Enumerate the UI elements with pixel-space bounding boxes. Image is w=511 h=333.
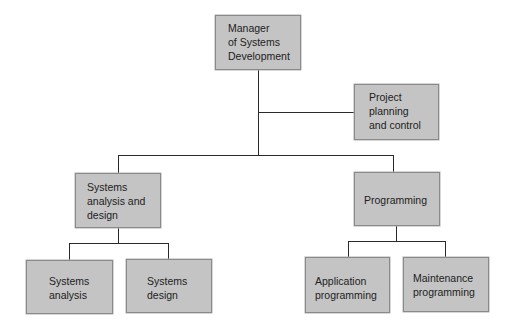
connector-programming-children-bar bbox=[348, 241, 446, 242]
connector-programming-down bbox=[396, 225, 397, 241]
node-systems-analysis: Systems analysis bbox=[26, 260, 113, 314]
node-systems-analysis-design: Systems analysis and design bbox=[75, 173, 161, 228]
node-application-programming: Application programming bbox=[305, 257, 390, 313]
node-label: Systems design bbox=[147, 274, 187, 302]
connector-to-systems-design bbox=[168, 243, 169, 259]
connector-to-programming bbox=[393, 155, 394, 172]
node-maintenance-programming: Maintenance programming bbox=[403, 257, 489, 312]
connector-staff-project-planning bbox=[258, 112, 354, 113]
node-programming: Programming bbox=[354, 172, 440, 226]
connector-level2-bar bbox=[118, 155, 394, 156]
node-label: Maintenance programming bbox=[413, 271, 475, 299]
connector-to-maintenance-programming bbox=[445, 241, 446, 257]
connector-to-sad bbox=[118, 155, 119, 173]
connector-to-application-programming bbox=[348, 241, 349, 257]
node-manager-systems-development: Manager of Systems Development bbox=[215, 15, 301, 70]
node-systems-design: Systems design bbox=[126, 259, 212, 313]
connector-sad-down bbox=[118, 227, 119, 243]
node-label: Manager of Systems Development bbox=[228, 21, 290, 63]
node-label: Systems analysis and design bbox=[87, 180, 145, 222]
node-label: Project planning and control bbox=[369, 90, 421, 132]
node-label: Programming bbox=[364, 193, 427, 207]
node-label: Systems analysis bbox=[49, 274, 89, 302]
node-project-planning-control: Project planning and control bbox=[354, 84, 439, 140]
node-label: Application programming bbox=[315, 274, 377, 302]
connector-to-systems-analysis bbox=[69, 243, 70, 260]
connector-sad-children-bar bbox=[69, 243, 169, 244]
